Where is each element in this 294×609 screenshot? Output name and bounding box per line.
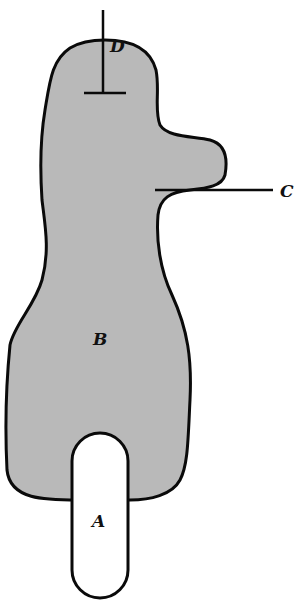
region-b-shape [6, 40, 226, 500]
label-a: A [90, 511, 105, 531]
label-d: D [109, 36, 125, 56]
label-b: B [92, 329, 107, 349]
diagram: D C B A [0, 0, 294, 609]
label-c: C [280, 181, 294, 201]
